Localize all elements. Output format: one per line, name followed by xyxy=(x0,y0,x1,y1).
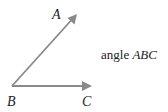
label-c: C xyxy=(82,95,91,109)
angle-caption: angle ABC xyxy=(101,48,157,61)
label-b: B xyxy=(7,95,16,109)
caption-prefix: angle xyxy=(101,47,132,62)
ray-bc xyxy=(12,81,92,91)
caption-angle-name: ABC xyxy=(132,47,157,62)
ray-ba xyxy=(12,14,77,86)
label-a: A xyxy=(52,8,61,22)
arrowhead-c-icon xyxy=(82,81,92,91)
